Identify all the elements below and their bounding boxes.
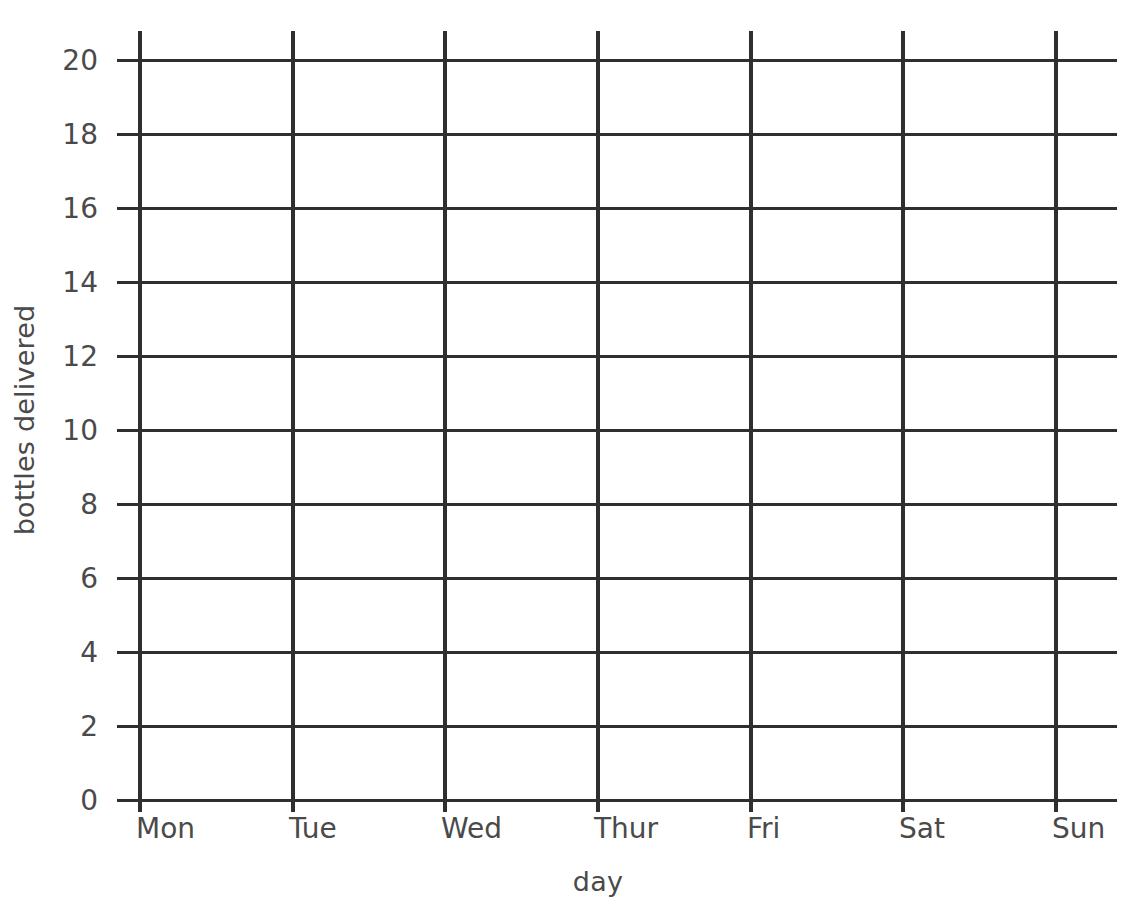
horizontal-gridlines: [117, 60, 1117, 800]
x-tick-label-fri: Fri: [747, 812, 780, 845]
x-tick-label-mon: Mon: [136, 812, 195, 845]
x-tick-label-sat: Sat: [899, 812, 945, 845]
x-tick-label-wed: Wed: [441, 812, 502, 845]
x-axis-title: day: [140, 866, 1056, 897]
chart-grid: [0, 0, 1123, 923]
x-tick-label-thur: Thur: [594, 812, 658, 845]
y-axis-title: bottles delivered: [8, 50, 42, 790]
x-tick-label-tue: Tue: [289, 812, 337, 845]
x-tick-label-sun: Sun: [1052, 812, 1105, 845]
chart-canvas: 20 18 16 14 12 10 8 6 4 2 0 Mon Tue Wed …: [0, 0, 1123, 923]
vertical-gridlines: [140, 31, 1056, 812]
